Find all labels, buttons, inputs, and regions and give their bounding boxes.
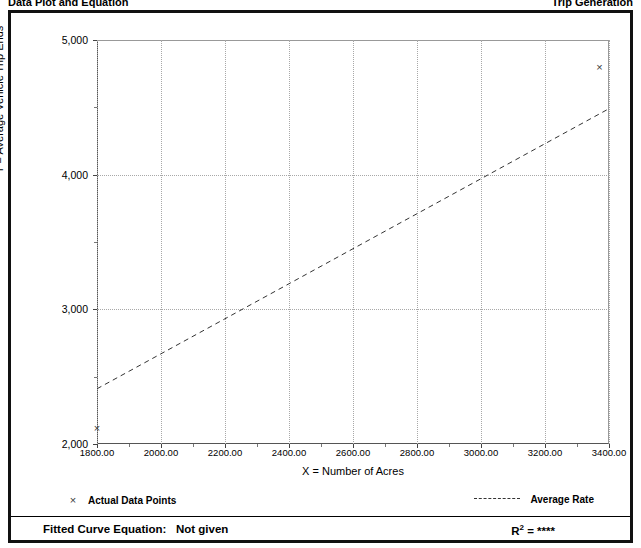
y-axis-tick-label: 3,000 — [62, 303, 88, 315]
fitted-curve-equation-value: Not given — [176, 523, 228, 535]
equation-footer: Fitted Curve Equation: Not given R2 = **… — [11, 516, 630, 542]
average-rate-trend-line — [97, 109, 609, 389]
x-axis-tick-label: 2200.00 — [208, 447, 242, 458]
r-squared-base: R — [511, 525, 519, 537]
figure-caption: Data Plot and Equation Trip Generation — [8, 0, 633, 9]
x-axis-tick-label: 3000.00 — [464, 447, 498, 458]
x-axis-tick-label: 2400.00 — [272, 447, 306, 458]
legend-item-actual-data-points: × Actual Data Points — [66, 494, 176, 506]
legend-label-actual-data-points: Actual Data Points — [88, 495, 176, 506]
plot-area: 1800.002000.002200.002400.002600.002800.… — [97, 40, 609, 444]
y-axis-tick — [93, 444, 97, 445]
x-axis-tick-minor — [513, 444, 514, 447]
figure-caption-left: Data Plot and Equation — [8, 0, 128, 9]
figure-caption-right: Trip Generation — [552, 0, 633, 9]
gridline-vertical — [609, 40, 610, 444]
fitted-curve-equation-label: Fitted Curve Equation: — [43, 523, 166, 535]
x-axis-tick-label: 2000.00 — [144, 447, 178, 458]
y-axis-title: T = Average Vehicle Trip Ends — [0, 26, 5, 173]
x-axis-tick-label: 2600.00 — [336, 447, 370, 458]
x-axis-title: X = Number of Acres — [97, 465, 609, 477]
y-axis-tick-label: 4,000 — [62, 169, 88, 181]
x-axis-tick-minor — [577, 444, 578, 447]
x-axis-tick-minor — [385, 444, 386, 447]
legend-item-average-rate: Average Rate — [474, 494, 594, 505]
fitted-curve-equation: Fitted Curve Equation: Not given — [43, 523, 228, 535]
y-axis-tick-label: 2,000 — [62, 438, 88, 450]
r-squared-equals: = — [527, 525, 534, 537]
x-axis-tick-label: 2800.00 — [400, 447, 434, 458]
x-axis-tick-minor — [257, 444, 258, 447]
r-squared-stars: **** — [537, 525, 555, 537]
r-squared-exponent: 2 — [520, 523, 524, 532]
x-axis-tick-minor — [193, 444, 194, 447]
cross-marker-icon: × — [66, 494, 80, 506]
chart-legend: × Actual Data Points Average Rate — [11, 490, 630, 516]
legend-label-average-rate: Average Rate — [530, 494, 594, 505]
x-axis-tick-minor — [449, 444, 450, 447]
chart-figure-frame: T = Average Vehicle Trip Ends 1800.00200… — [8, 10, 633, 543]
x-axis-tick-minor — [129, 444, 130, 447]
x-axis-tick-label: 3200.00 — [528, 447, 562, 458]
trend-line-layer — [97, 40, 609, 444]
x-axis-tick-label: 3400.00 — [592, 447, 626, 458]
dashed-line-icon — [474, 498, 520, 499]
r-squared-value: R2 = **** — [511, 523, 555, 537]
y-axis-tick-label: 5,000 — [62, 34, 88, 46]
x-axis-tick-minor — [321, 444, 322, 447]
